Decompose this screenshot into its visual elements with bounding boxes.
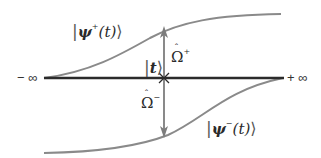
psi-symbol: ψ bbox=[78, 23, 92, 41]
t-symbol: t bbox=[150, 59, 157, 77]
hat-accent: ˆ bbox=[174, 43, 179, 53]
minus-infinity-label: − ∞ bbox=[17, 71, 37, 84]
minus-superscript: − bbox=[226, 119, 233, 128]
diagram-canvas: |ψ+(t)⟩ ˆΩ+ |t⟩ ˆΩ− |ψ−(t)⟩ − ∞ + ∞ bbox=[0, 0, 321, 158]
diagram-graphics bbox=[0, 0, 321, 158]
omega-minus-label: ˆΩ− bbox=[141, 96, 160, 111]
ket-right-angle: ⟩ bbox=[157, 58, 163, 77]
ket-right-angle: ⟩ bbox=[116, 22, 122, 41]
hat-accent: ˆ bbox=[144, 89, 149, 99]
psi-plus-label: |ψ+(t)⟩ bbox=[72, 23, 123, 40]
t-ket-label: |t⟩ bbox=[144, 59, 163, 76]
plus-infinity-label: + ∞ bbox=[287, 71, 307, 84]
ket-right-angle: ⟩ bbox=[250, 119, 256, 138]
time-argument: (t) bbox=[233, 120, 251, 138]
psi-minus-label: |ψ−(t)⟩ bbox=[206, 120, 257, 137]
plus-superscript: + bbox=[92, 22, 99, 31]
psi-symbol: ψ bbox=[212, 120, 226, 138]
minus-superscript: − bbox=[153, 93, 160, 102]
plus-superscript: + bbox=[183, 47, 190, 56]
time-argument: (t) bbox=[99, 23, 117, 41]
omega-plus-label: ˆΩ+ bbox=[171, 50, 190, 65]
